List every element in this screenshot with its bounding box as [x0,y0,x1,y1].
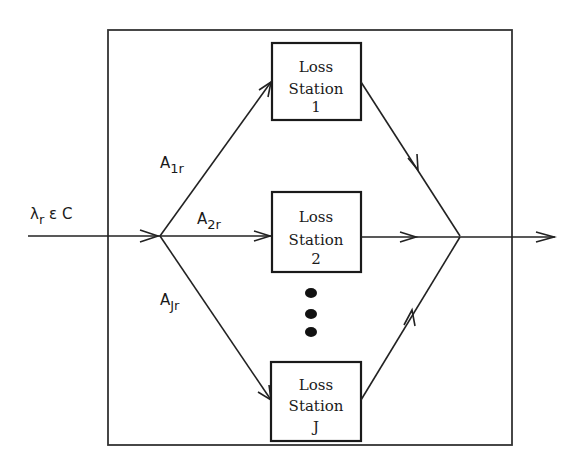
route-arrow-j [160,236,271,400]
svg-text:1: 1 [311,98,321,116]
svg-text:Loss: Loss [299,208,333,226]
system-output-arrow [460,232,555,242]
output-arrow-2 [361,232,460,242]
route-arrow-2 [160,231,272,241]
input-arrow [28,230,160,242]
output-arrow-j [361,237,460,400]
svg-text:Loss: Loss [299,376,333,394]
svg-text:Station: Station [289,231,344,249]
loss-station-2: Loss Station 2 [272,192,361,272]
svg-text:Station: Station [289,80,344,98]
svg-text:Loss: Loss [299,58,333,76]
route-label-1: A1r [160,154,185,176]
svg-text:2: 2 [311,250,321,268]
route-label-j: AJr [160,291,180,313]
loss-network-diagram: λr ε C A1r A2r AJr Loss Station 1 Loss S… [0,0,581,468]
route-label-2: A2r [197,210,222,232]
svg-text:Station: Station [289,397,344,415]
loss-station-j: Loss Station J [271,362,361,441]
svg-text:J: J [311,418,319,436]
loss-station-1: Loss Station 1 [272,43,361,120]
ellipsis-dots [305,288,317,337]
input-label: λr ε C [30,205,72,227]
output-arrow-1 [361,82,460,236]
route-arrow-1 [160,82,271,236]
